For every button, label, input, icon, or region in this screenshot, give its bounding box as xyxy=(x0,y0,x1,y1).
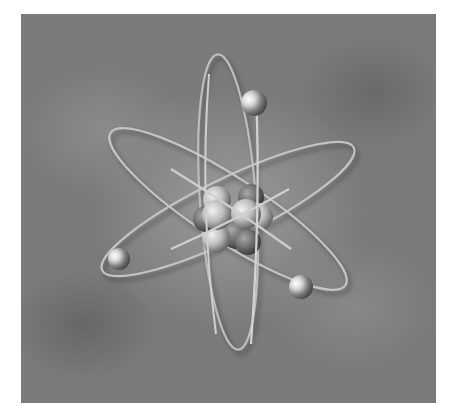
orbit-rings-front xyxy=(171,74,291,344)
electron-left xyxy=(108,248,130,270)
electron-top xyxy=(241,90,267,116)
atom-illustration xyxy=(21,14,436,403)
electron-right xyxy=(289,275,313,299)
atom-graphic xyxy=(21,14,436,403)
